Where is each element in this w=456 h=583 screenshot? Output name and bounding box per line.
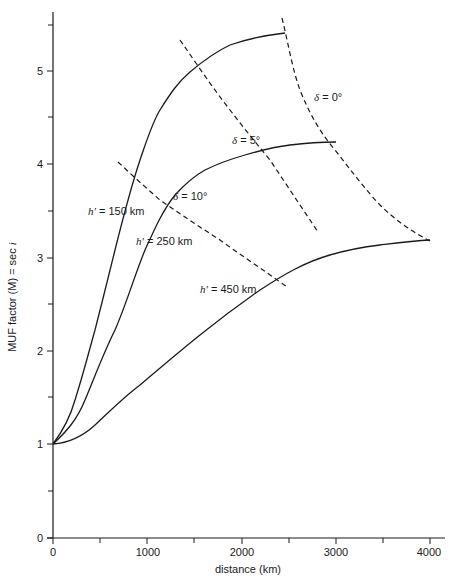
axes (47, 12, 445, 538)
x-tick-label: 4000 (417, 546, 441, 558)
label-delta-0: δ = 0° (314, 91, 342, 103)
x-tick-label: 1000 (136, 546, 160, 558)
dashed-delta-0 (282, 18, 432, 242)
x-ticks (53, 538, 430, 544)
y-tick-label: 1 (37, 438, 43, 450)
label-delta-5: δ = 5° (232, 134, 260, 146)
x-tick-labels: 0 1000 2000 3000 4000 (50, 546, 441, 558)
y-tick-labels: 0 1 2 3 4 5 (37, 65, 43, 544)
muf-factor-chart: 0 1 2 3 4 5 0 1000 2000 3000 4000 distan… (0, 0, 456, 583)
y-tick-label: 3 (37, 252, 43, 264)
label-h450: h′ = 450 km (200, 283, 257, 295)
y-tick-label: 0 (37, 532, 43, 544)
label-delta-10: δ = 10° (173, 190, 207, 202)
x-tick-label: 2000 (230, 546, 254, 558)
label-h150: h′ = 150 km (88, 205, 145, 217)
height-curves (53, 33, 430, 444)
y-axis-title: MUF factor (M) = sec i (6, 242, 18, 352)
label-h250: h′ = 250 km (136, 235, 193, 247)
curve-h250 (53, 142, 336, 444)
y-ticks (47, 25, 53, 538)
x-tick-label: 0 (50, 546, 56, 558)
y-tick-label: 2 (37, 345, 43, 357)
y-tick-label: 5 (37, 65, 43, 77)
dashed-delta-10 (118, 162, 287, 287)
x-axis-title: distance (km) (215, 563, 281, 575)
y-tick-label: 4 (37, 158, 43, 170)
x-tick-label: 3000 (324, 546, 348, 558)
